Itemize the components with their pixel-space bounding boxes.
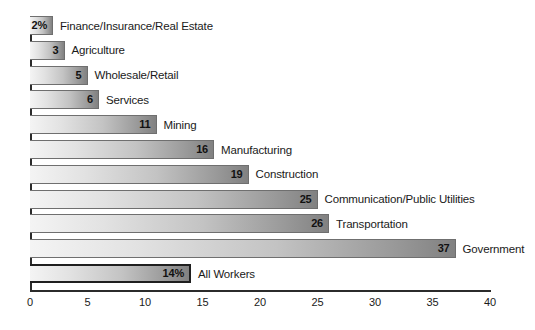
x-tick-label: 15 bbox=[183, 296, 223, 308]
x-tick-label: 20 bbox=[240, 296, 280, 308]
bar-value-label: 11 bbox=[139, 119, 155, 130]
bar-row: 3Agriculture bbox=[30, 41, 490, 60]
bar: 37 bbox=[30, 239, 456, 258]
bar-category-label: Transportation bbox=[336, 214, 408, 233]
x-tick-label: 40 bbox=[470, 296, 510, 308]
bar-value-label: 19 bbox=[231, 169, 248, 180]
bar-row: 16Manufacturing bbox=[30, 140, 490, 159]
x-tick-label: 35 bbox=[413, 296, 453, 308]
bar-category-label: Communication/Public Utilities bbox=[325, 190, 475, 209]
bar-category-label: Manufacturing bbox=[221, 140, 292, 159]
bar: 19 bbox=[30, 165, 249, 184]
bar-category-label: Wholesale/Retail bbox=[95, 66, 179, 85]
bar-category-label: Mining bbox=[164, 115, 197, 134]
bar-value-label: 25 bbox=[300, 194, 317, 205]
bar-category-label: Construction bbox=[256, 165, 319, 184]
bar-chart: 2%Finance/Insurance/Real Estate3Agricult… bbox=[0, 0, 535, 330]
bar: 25 bbox=[30, 190, 318, 209]
x-tick-label: 0 bbox=[10, 296, 50, 308]
bar-row: 2%Finance/Insurance/Real Estate bbox=[30, 16, 490, 35]
bar-value-label: 3 bbox=[53, 45, 64, 56]
bar: 26 bbox=[30, 214, 329, 233]
bar-row: 37Government bbox=[30, 239, 490, 258]
x-axis-line bbox=[30, 290, 491, 292]
bar-value-label: 6 bbox=[87, 94, 98, 105]
x-tick-label: 10 bbox=[125, 296, 165, 308]
bar: 14% bbox=[30, 264, 191, 283]
bar-category-label: Government bbox=[463, 239, 525, 258]
bar: 16 bbox=[30, 140, 214, 159]
x-tick-label: 25 bbox=[298, 296, 338, 308]
bar-value-label: 37 bbox=[438, 243, 455, 254]
bar-category-label: Services bbox=[106, 90, 149, 109]
bar-category-label: Finance/Insurance/Real Estate bbox=[60, 16, 213, 35]
bar-row: 19Construction bbox=[30, 165, 490, 184]
bar-row: 11Mining bbox=[30, 115, 490, 134]
bar-row: 14%All Workers bbox=[30, 264, 490, 283]
bar: 6 bbox=[30, 90, 99, 109]
bar: 2% bbox=[30, 16, 53, 35]
bar: 5 bbox=[30, 66, 88, 85]
bar: 3 bbox=[30, 41, 65, 60]
bar-category-label: All Workers bbox=[198, 264, 255, 283]
bar-row: 6Services bbox=[30, 90, 490, 109]
x-tick-label: 30 bbox=[355, 296, 395, 308]
bar-category-label: Agriculture bbox=[72, 41, 125, 60]
bar-value-label: 5 bbox=[76, 70, 87, 81]
bar-value-label: 2% bbox=[32, 20, 53, 31]
bar-value-label: 16 bbox=[196, 144, 213, 155]
bar-value-label: 26 bbox=[311, 218, 328, 229]
bar-row: 5Wholesale/Retail bbox=[30, 66, 490, 85]
plot-area: 2%Finance/Insurance/Real Estate3Agricult… bbox=[30, 16, 490, 288]
bar-value-label: 14% bbox=[163, 268, 189, 279]
bar-row: 25Communication/Public Utilities bbox=[30, 190, 490, 209]
bar: 11 bbox=[30, 115, 157, 134]
x-tick-label: 5 bbox=[68, 296, 108, 308]
bar-row: 26Transportation bbox=[30, 214, 490, 233]
